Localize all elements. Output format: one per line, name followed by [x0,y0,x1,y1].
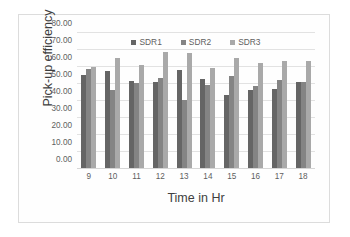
bar-sdr3-14 [210,68,215,168]
bar-group [77,33,101,168]
y-axis-tick-label: 20.00 [52,121,73,130]
x-axis-tick-label: 18 [291,172,315,186]
bar-sdr3-12 [163,52,168,168]
x-axis-ticks: 9101112131415161718 [77,172,315,186]
x-axis-tick-label: 16 [244,172,268,186]
bar-sdr3-17 [282,61,287,168]
x-axis-tick-label: 13 [172,172,196,186]
y-axis-tick-label: 0.00 [56,155,72,164]
bar-series-group [77,33,315,168]
y-axis-tick-label: 60.00 [52,53,73,62]
plot-area: 0.0010.0020.0030.0040.0050.0060.0070.008… [77,33,315,169]
bar-group [101,33,125,168]
chart-container: Pick-up efficiency SDR1SDR2SDR3 0.0010.0… [18,14,330,223]
x-axis-tick-label: 12 [148,172,172,186]
bar-sdr3-13 [187,53,192,168]
bar-group [244,33,268,168]
y-axis-tick-label: 80.00 [52,19,73,28]
y-axis-tick-label: 30.00 [52,104,73,113]
bar-group [196,33,220,168]
bar-sdr3-15 [234,58,239,168]
x-axis-title: Time in Hr [77,191,315,205]
x-axis-tick-label: 9 [77,172,101,186]
x-axis-tick-label: 17 [267,172,291,186]
bar-group [220,33,244,168]
y-axis-tick-label: 50.00 [52,70,73,79]
bar-group [125,33,149,168]
x-axis-tick-label: 11 [125,172,149,186]
bar-sdr3-10 [115,58,120,168]
x-axis-tick-label: 14 [196,172,220,186]
bar-group [148,33,172,168]
x-axis-tick-label: 10 [101,172,125,186]
y-axis-tick-label: 10.00 [52,138,73,147]
bar-group [267,33,291,168]
x-axis-tick-label: 15 [220,172,244,186]
bar-sdr3-18 [306,61,311,168]
x-axis-line [77,168,315,169]
y-axis-tick-label: 40.00 [52,87,73,96]
y-axis-tick-label: 70.00 [52,36,73,45]
bar-sdr3-16 [258,63,263,168]
bar-sdr3-11 [139,65,144,168]
bar-sdr3-9 [91,67,96,168]
bar-group [291,33,315,168]
bar-group [172,33,196,168]
